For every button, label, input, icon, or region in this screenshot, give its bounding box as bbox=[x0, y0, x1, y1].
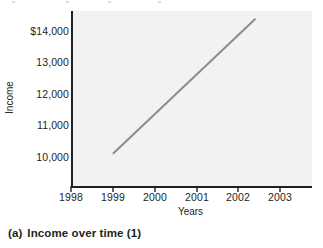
y-tick-label-10000: 10,000 bbox=[3, 152, 69, 163]
y-tick-label-13000: 13,000 bbox=[3, 57, 69, 68]
figure-caption-text: Income over time (1) bbox=[27, 227, 141, 239]
x-axis-tick-labels: 1998 1999 2000 2001 2002 2003 bbox=[0, 191, 323, 207]
figure-caption: (a)Income over time (1) bbox=[8, 226, 141, 240]
y-axis-title: Income bbox=[4, 70, 15, 126]
x-tick-label-2003: 2003 bbox=[255, 191, 305, 203]
x-axis-title: Years bbox=[71, 206, 310, 218]
figure-income-over-time: $14,000 13,000 12,000 11,000 10,000 1998… bbox=[0, 0, 323, 248]
series-income bbox=[113, 19, 256, 154]
y-tick-label-14000: $14,000 bbox=[3, 26, 69, 37]
figure-caption-label: (a) bbox=[8, 227, 22, 239]
